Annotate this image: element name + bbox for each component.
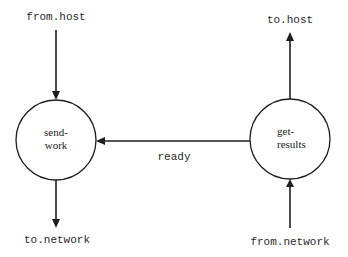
node-send-work: send- work — [16, 100, 96, 180]
edge-to-host: to.host — [267, 14, 313, 99]
arrowhead-up-icon — [286, 32, 294, 41]
to-network-label: to.network — [24, 234, 90, 246]
node-get-results: get- results — [250, 99, 330, 179]
from-network-label: from.network — [250, 236, 330, 248]
arrowhead-down-icon — [52, 219, 60, 228]
send-work-label-line1: send- — [44, 126, 68, 138]
arrowhead-up-icon — [286, 179, 294, 187]
to-host-label: to.host — [267, 14, 313, 26]
edge-from-host: from.host — [26, 11, 85, 100]
arrowhead-left-icon — [96, 137, 105, 145]
send-work-label-line2: work — [45, 139, 68, 151]
get-results-label-line2: results — [277, 138, 306, 150]
ready-label: ready — [157, 151, 190, 163]
from-host-label: from.host — [26, 11, 85, 23]
process-diagram: send- work get- results from.host to.net… — [0, 0, 348, 257]
edge-ready: ready — [96, 137, 250, 163]
edge-to-network: to.network — [24, 180, 90, 246]
edge-from-network: from.network — [250, 179, 330, 248]
arrowhead-down-icon — [52, 91, 60, 100]
get-results-label-line1: get- — [277, 125, 294, 137]
